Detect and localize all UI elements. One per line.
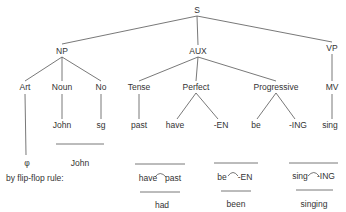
node-perfect: Perfect bbox=[183, 82, 210, 92]
node-np: NP bbox=[56, 46, 68, 56]
leaf-be: be bbox=[251, 120, 260, 130]
node-vp: VP bbox=[326, 43, 337, 53]
pair-1-result: had bbox=[155, 200, 169, 210]
pair-2-left: be bbox=[217, 172, 226, 182]
pair-3-left: sing bbox=[292, 171, 308, 181]
leaf-sg: sg bbox=[97, 120, 106, 130]
node-art: Art bbox=[20, 82, 31, 92]
node-tense: Tense bbox=[128, 82, 151, 92]
leaf-en: -EN bbox=[214, 120, 229, 130]
node-aux: AUX bbox=[189, 46, 206, 56]
leaf-ing: -ING bbox=[289, 120, 307, 130]
node-progressive: Progressive bbox=[254, 82, 299, 92]
node-no: No bbox=[96, 82, 107, 92]
pair-3-result: singing bbox=[301, 199, 328, 209]
pair-1-right: past bbox=[165, 173, 181, 183]
leaf-sing: sing bbox=[322, 120, 338, 130]
node-mv: MV bbox=[326, 82, 339, 92]
pair-1-left: have bbox=[139, 173, 157, 183]
node-s: S bbox=[194, 5, 200, 15]
art-result-null: φ bbox=[24, 158, 30, 168]
node-noun: Noun bbox=[52, 82, 72, 92]
np-result: John bbox=[71, 158, 89, 168]
rule-label: by flip-flop rule: bbox=[6, 173, 64, 183]
pair-2-result: been bbox=[227, 199, 246, 209]
pair-2-right: -EN bbox=[238, 172, 253, 182]
pair-3-right: -ING bbox=[317, 171, 335, 181]
leaf-past: past bbox=[131, 120, 147, 130]
leaf-have: have bbox=[166, 120, 184, 130]
leaf-john: John bbox=[53, 120, 71, 130]
